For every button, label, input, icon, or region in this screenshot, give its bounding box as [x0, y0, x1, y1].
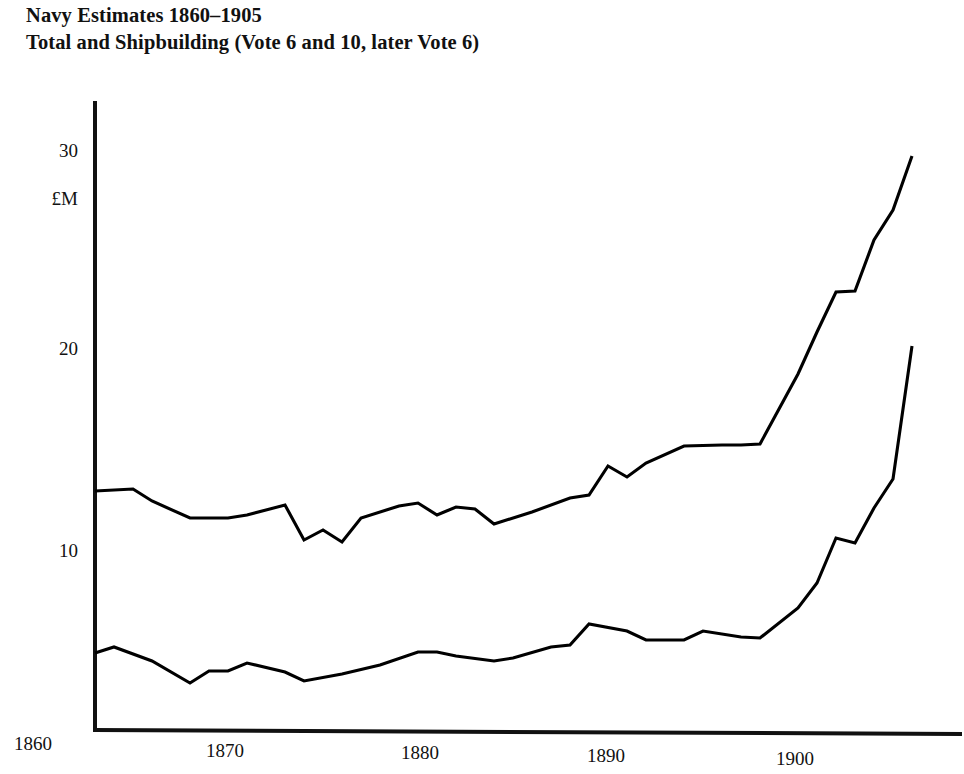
series-line-total [95, 156, 912, 542]
chart-page: Navy Estimates 1860–1905 Total and Shipb… [0, 0, 964, 774]
chart-plot-area [0, 0, 964, 774]
x-axis-line [93, 730, 962, 734]
series-line-shipbuilding [95, 346, 912, 683]
